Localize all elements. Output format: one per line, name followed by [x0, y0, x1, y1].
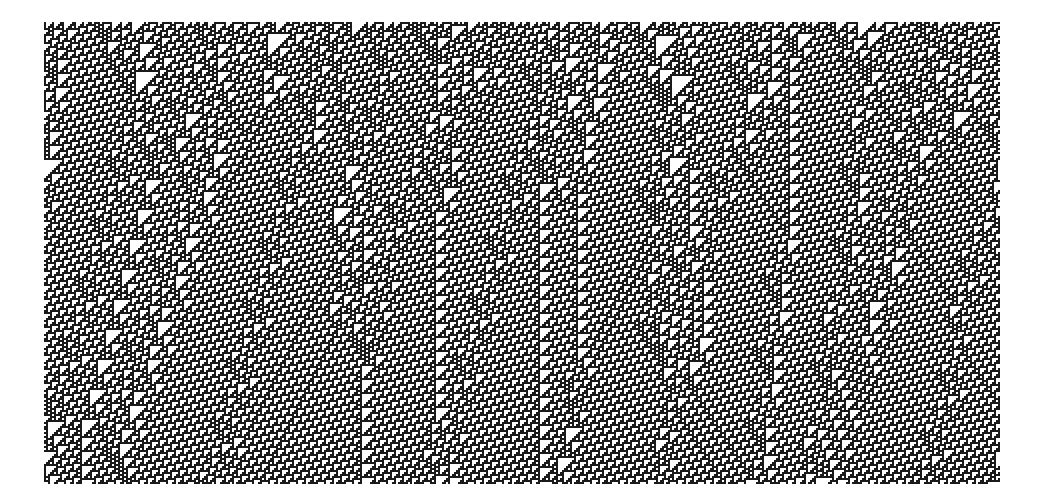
cellular-automaton-figure	[44, 22, 1000, 484]
rule-110-evolution-canvas	[44, 22, 1000, 484]
